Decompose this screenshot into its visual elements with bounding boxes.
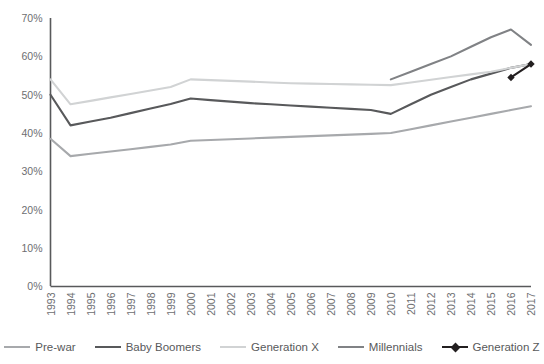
x-tick-label: 2014 <box>465 292 477 316</box>
x-tick-label: 1994 <box>65 292 77 316</box>
x-tick-label: 2001 <box>205 292 217 316</box>
legend-label: Generation X <box>251 341 319 353</box>
legend-swatch-icon <box>4 342 30 352</box>
legend-swatch-icon <box>338 342 364 352</box>
x-tick-label: 2002 <box>225 292 237 316</box>
x-tick-label: 2007 <box>325 292 337 316</box>
x-tick-label: 2004 <box>265 292 277 316</box>
y-tick-label: 30% <box>21 165 42 177</box>
legend-label: Generation Z <box>473 341 540 353</box>
x-tick-label: 2016 <box>505 292 517 316</box>
x-tick-label: 1995 <box>85 292 97 316</box>
x-tick-label: 2010 <box>385 292 397 316</box>
chart-legend: Pre-warBaby BoomersGeneration XMillennia… <box>0 332 544 362</box>
x-tick-label: 2008 <box>345 292 357 316</box>
series-line <box>51 106 532 156</box>
plot-area: 0%10%20%30%40%50%60%70% 1993199419951996… <box>0 0 544 330</box>
x-tick-label: 2005 <box>285 292 297 316</box>
x-tick-label: 1997 <box>125 292 137 316</box>
legend-swatch-icon <box>442 342 468 352</box>
x-axis-tick-labels: 1993199419951996199719981999200020012002… <box>45 292 538 316</box>
series-lines <box>51 30 535 157</box>
y-tick-label: 70% <box>21 12 42 24</box>
x-tick-label: 2011 <box>405 292 417 315</box>
x-tick-label: 2015 <box>485 292 497 316</box>
legend-item[interactable]: Millennials <box>338 341 423 353</box>
legend-label: Pre-war <box>35 341 75 353</box>
legend-swatch-icon <box>95 342 121 352</box>
chart-svg: 0%10%20%30%40%50%60%70% 1993199419951996… <box>0 0 544 330</box>
line-chart: 0%10%20%30%40%50%60%70% 1993199419951996… <box>0 0 544 364</box>
y-tick-label: 10% <box>21 242 42 254</box>
x-tick-label: 1998 <box>145 292 157 316</box>
x-tick-label: 1993 <box>45 292 57 316</box>
legend-item[interactable]: Baby Boomers <box>95 341 201 353</box>
x-tick-label: 2003 <box>245 292 257 316</box>
x-tick-label: 2017 <box>525 292 537 316</box>
series-line <box>391 30 531 80</box>
legend-item[interactable]: Generation Z <box>442 341 540 353</box>
y-tick-label: 40% <box>21 127 42 139</box>
legend-label: Millennials <box>369 341 423 353</box>
x-tick-label: 2012 <box>425 292 437 316</box>
x-tick-label: 2000 <box>185 292 197 316</box>
x-tick-label: 2006 <box>305 292 317 316</box>
y-tick-label: 60% <box>21 50 42 62</box>
y-tick-label: 20% <box>21 204 42 216</box>
x-tick-label: 2013 <box>445 292 457 316</box>
y-axis-tick-labels: 0%10%20%30%40%50%60%70% <box>21 12 42 293</box>
x-tick-label: 1996 <box>105 292 117 316</box>
legend-swatch-icon <box>220 342 246 352</box>
x-tick-label: 1999 <box>165 292 177 316</box>
legend-label: Baby Boomers <box>126 341 201 353</box>
legend-item[interactable]: Pre-war <box>4 341 75 353</box>
legend-item[interactable]: Generation X <box>220 341 319 353</box>
y-tick-label: 0% <box>27 280 42 292</box>
x-tick-label: 2009 <box>365 292 377 316</box>
y-tick-label: 50% <box>21 89 42 101</box>
